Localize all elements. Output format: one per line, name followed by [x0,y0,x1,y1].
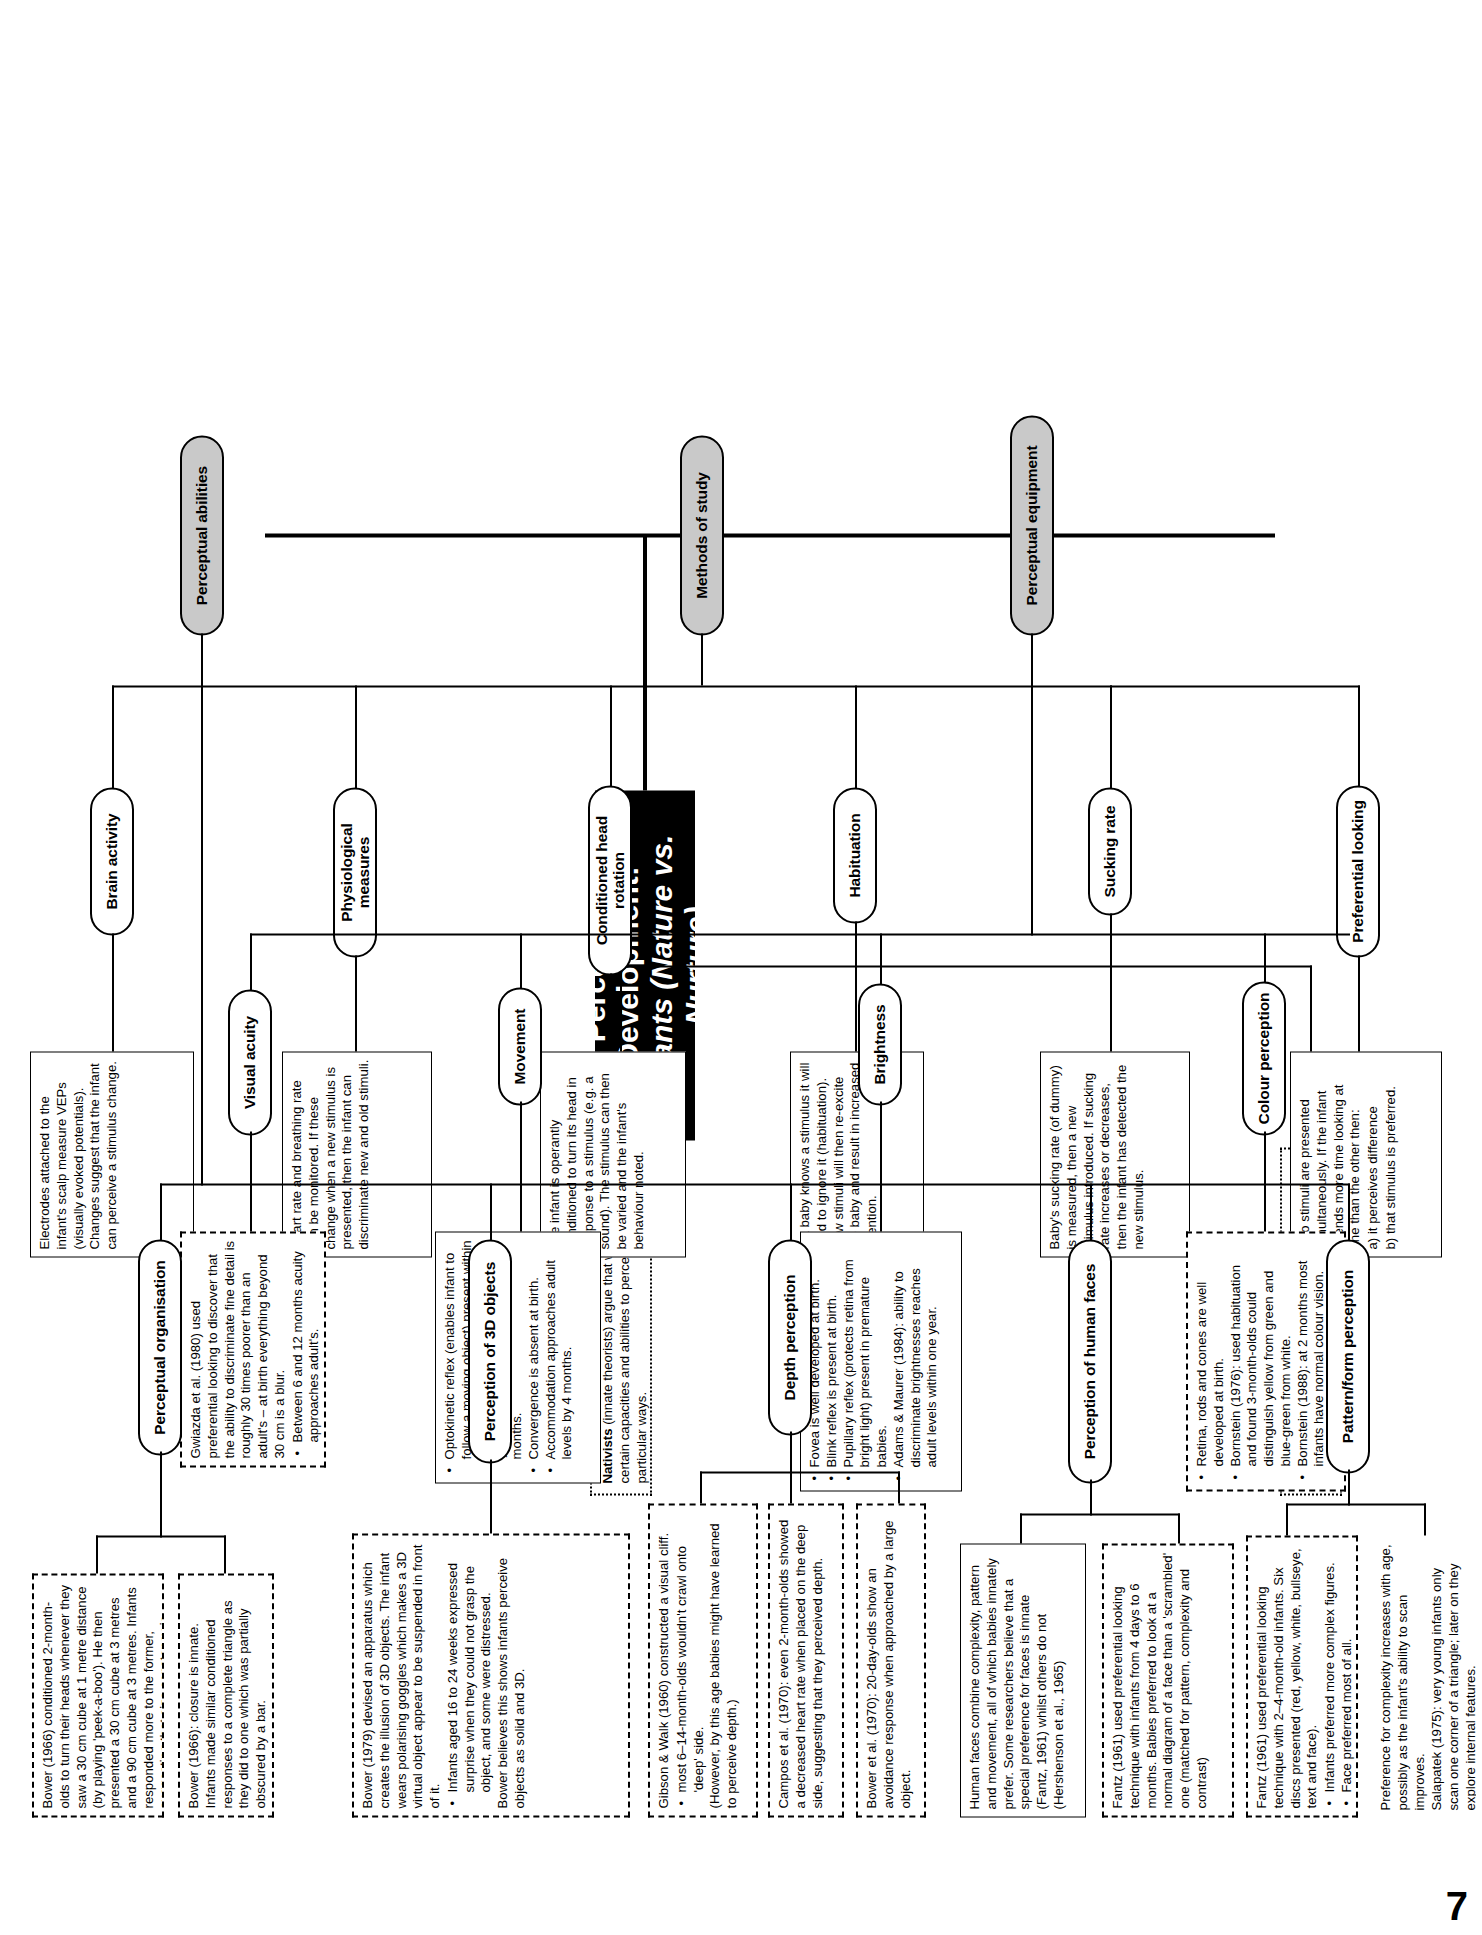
textbox-bullet: Infants aged 16 to 24 weeks expressed su… [445,1542,495,1792]
branch-node-perceptual-abilities[interactable]: Perceptual abilities [180,435,224,635]
textbox-conditioned-head-rotation: The infant is operantly conditioned to t… [540,1051,686,1257]
connector-brain-activity [112,685,114,795]
abilities-subspine [160,1183,1350,1185]
leader-perceptual-organisation [160,1451,162,1537]
preferential-drop [1110,685,1360,687]
connector-depth-perception [790,1183,792,1245]
leader-depth-perception [790,1431,792,1473]
textbox-pattern-form-perception-1: Fantz (1961) used preferential looking t… [1246,1535,1358,1817]
textbox-paragraph: Electrodes attached to the infant's scal… [37,1059,121,1249]
abilities-subspine-link [201,685,203,1185]
textbox-paragraph: Heart rate and breathing rate can be mon… [289,1059,373,1249]
node-habituation[interactable]: Habituation [833,787,877,923]
textbox-bullet-1: Face preferred most of all. [1339,1544,1356,1792]
node-visual-acuity[interactable]: Visual acuity [228,989,272,1135]
node-label: Physiological measures [338,795,372,949]
leader-brightness [880,1101,882,1235]
diagram-page: Perceptual Development: Infants (Nature … [0,0,1482,1935]
node-label: Pattern/form perception [1339,1269,1356,1442]
branch-node-methods-of-study[interactable]: Methods of study [680,435,724,635]
perceptual-organisation-fork [96,1535,226,1537]
textbox-bullet-0: Retina, rods and cones are well develope… [1194,1240,1228,1466]
textbox-paragraph: Fantz (1961) used preferential looking t… [1254,1544,1321,1808]
leader-pattern-a [1286,1503,1288,1537]
textbox-bullet-3: Adams & Maurer (1984): ability to discri… [891,1239,941,1467]
textbox-paragraph: Gibson & Walk (1960) constructed a visua… [656,1512,673,1808]
node-label: Brightness [871,1004,888,1084]
node-brain-activity[interactable]: Brain activity [90,787,134,935]
textbox-bullet-1: Bornstein (1976): used habituation and f… [1228,1240,1295,1466]
theory-connector-vertical [620,965,1312,967]
textbox-paragraph: The infant is operantly conditioned to t… [547,1059,648,1249]
textbox-depth-perception-2: Campos et al. (1970): even 2-month-olds … [768,1503,844,1817]
node-colour-perception[interactable]: Colour perception [1242,981,1286,1135]
leader-perception-human-faces [1090,1479,1092,1515]
pattern-form-fork [1286,1503,1426,1505]
leader-habituation [855,921,857,1055]
node-label: Visual acuity [241,1015,258,1108]
node-sucking-rate[interactable]: Sucking rate [1088,787,1132,915]
leader-brain-activity [112,933,114,1055]
leader-faces-b [1178,1513,1180,1545]
branch-label: Perceptual abilities [193,465,210,604]
leader-physiological-measures [355,955,357,1055]
leader-perception-3d-objects [490,1459,492,1537]
node-label: Conditioned head rotation [593,793,627,967]
textbox-bullet: Between 6 and 12 months acuity approache… [290,1240,324,1442]
textbox-paragraph: Bower (1966): closure is innate. Infants… [186,1582,270,1808]
leader-depth-b [790,1471,792,1505]
nativists-lead: Nativists [600,1428,615,1483]
textbox-sucking-rate: Baby's sucking rate (of dummy) is measur… [1040,1051,1190,1257]
node-brightness[interactable]: Brightness [858,983,902,1105]
leader-pattern-form-perception [1348,1469,1350,1505]
node-label: Perceptual organisation [151,1260,168,1434]
node-conditioned-head-rotation[interactable]: Conditioned head rotation [588,785,632,975]
node-perception-of-3d-objects[interactable]: Perception of 3D objects [468,1239,512,1463]
connector-perception-3d-objects [490,1183,492,1245]
connector-pattern-form-perception [1348,1183,1350,1245]
textbox-paragraph-2: b) that stimulus is preferred. [1383,1059,1400,1249]
leader-movement [520,1101,522,1235]
leader-faces-a [1020,1513,1022,1545]
textbox-bullet-2: Pupillary reflex (protects retina from b… [841,1239,891,1467]
textbox-bullet-2: Bornstein (1988): at 2 months most infan… [1295,1240,1329,1466]
textbox-paragraph: Campos et al. (1970): even 2-month-olds … [776,1512,826,1808]
branch-label: Methods of study [693,472,710,599]
methods-stub [701,633,703,685]
node-label: Brain activity [103,813,120,909]
textbox-paragraph: Human faces combine complexity, pattern … [967,1551,1068,1809]
equipment-stub [1031,633,1033,687]
textbox-paragraph: Bower (1979) devised an apparatus which … [360,1542,444,1808]
leader-pattern-b [1424,1503,1426,1537]
node-label: Perception of human faces [1081,1263,1098,1459]
leader-perceptual-organisation-b [224,1535,226,1575]
main-spine [643,535,647,790]
leader-preferential-looking [1358,955,1360,1055]
connector-perceptual-organisation [160,1183,162,1245]
textbox-paragraph: Fantz (1961) used preferential looking t… [1110,1552,1211,1808]
leader-perceptual-organisation-a [96,1535,98,1575]
textbox-movement: Optokinetic reflex (enables infant to fo… [435,1231,601,1483]
node-depth-perception[interactable]: Depth perception [768,1239,812,1435]
textbox-paragraph: Baby's sucking rate (of dummy) is measur… [1047,1059,1148,1249]
textbox-perception-of-3d-objects: Bower (1979) devised an apparatus which … [352,1533,630,1817]
connector-movement [520,933,522,995]
textbox-perception-of-human-faces-1: Human faces combine complexity, pattern … [960,1543,1086,1817]
node-movement[interactable]: Movement [498,987,542,1105]
node-label: Colour perception [1255,992,1272,1124]
node-label: Preferential looking [1349,800,1366,943]
node-pattern-form-perception[interactable]: Pattern/form perception [1326,1239,1370,1473]
node-label: Depth perception [781,1274,798,1400]
node-perception-of-human-faces[interactable]: Perception of human faces [1068,1239,1112,1483]
textbox-after: Bower believes this shows infants percei… [495,1542,529,1808]
node-label: Perception of 3D objects [481,1261,498,1440]
textbox-paragraph-0: Preference for complexity increases with… [1378,1542,1428,1810]
textbox-perceptual-organisation-2: Bower (1966): closure is innate. Infants… [178,1573,274,1817]
textbox-paragraph-1: a) it perceives difference [1365,1059,1382,1249]
textbox-paragraph: Gwiazda et al. (1980) used preferential … [188,1240,289,1458]
connector-perception-human-faces [1090,1183,1092,1245]
node-perceptual-organisation[interactable]: Perceptual organisation [138,1239,182,1455]
branch-node-perceptual-equipment[interactable]: Perceptual equipment [1010,415,1054,635]
node-physiological-measures[interactable]: Physiological measures [333,787,377,957]
node-preferential-looking[interactable]: Preferential looking [1336,785,1380,957]
